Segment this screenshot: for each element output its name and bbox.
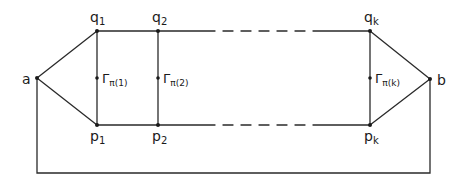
graph-diagram: a b q1 q2 qk p1 p2 pk Γπ(1) Γπ(2) Γπ(k) (0, 0, 464, 185)
label-gamma-pi-1: Γπ(1) (102, 71, 127, 88)
vertex-qk (368, 29, 372, 33)
label-qk: qk (364, 9, 379, 27)
label-pk: pk (364, 128, 379, 146)
rung-mid-2 (156, 76, 160, 80)
vertex-p2 (156, 123, 160, 127)
edge-a-p1 (37, 78, 97, 125)
vertex-p1 (95, 123, 99, 127)
label-gamma-pi-k: Γπ(k) (375, 71, 400, 88)
label-b: b (437, 72, 446, 88)
edge-a-q1 (37, 31, 97, 78)
label-q2: q2 (152, 9, 167, 27)
label-gamma-pi-2: Γπ(2) (163, 71, 188, 88)
vertex-q2 (156, 29, 160, 33)
label-a: a (22, 71, 31, 87)
rung-mid-1 (95, 76, 99, 80)
vertex-pk (368, 123, 372, 127)
label-q1: q1 (90, 9, 105, 27)
label-p1: p1 (90, 128, 105, 146)
vertex-a (35, 76, 39, 80)
rung-mid-k (368, 76, 372, 80)
vertex-q1 (95, 29, 99, 33)
vertex-b (428, 77, 432, 81)
label-p2: p2 (152, 128, 167, 146)
